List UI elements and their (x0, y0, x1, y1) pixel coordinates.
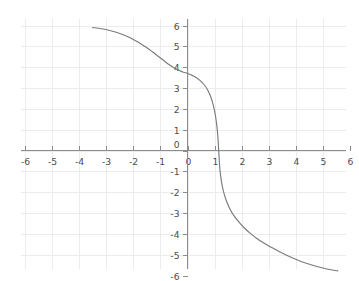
y-tick-label: 4 (174, 62, 180, 73)
x-tick-label: -4 (75, 156, 84, 167)
x-tick-label: 6 (348, 156, 354, 167)
y-tick-label: 6 (174, 21, 180, 32)
y-tick-label: -2 (170, 187, 179, 198)
x-tick-label: -6 (21, 156, 30, 167)
x-tick-label: -1 (156, 156, 165, 167)
y-tick-label: -1 (170, 166, 179, 177)
y-tick-label: 2 (174, 104, 180, 115)
y-tick-label: -3 (170, 208, 179, 219)
y-tick-label: -6 (170, 271, 179, 281)
y-tick-label: 1 (174, 125, 180, 136)
x-tick-label: 2 (240, 156, 246, 167)
y-tick-label: 5 (174, 41, 180, 52)
x-tick-label: -3 (102, 156, 111, 167)
x-tick-label: 5 (321, 156, 327, 167)
x-tick-label: 0 (186, 156, 192, 167)
x-tick-label: 1 (213, 156, 219, 167)
x-tick-label: -2 (129, 156, 138, 167)
y-tick-label: -5 (170, 250, 179, 261)
coordinate-plane-chart: -6-5-4-3-2-10123456 -6-5-4-3-2-11234560 (0, 0, 359, 281)
chart-figure: -6-5-4-3-2-10123456 -6-5-4-3-2-11234560 (0, 0, 359, 281)
y-tick-label: -4 (170, 229, 179, 240)
x-tick-label: -5 (48, 156, 57, 167)
x-tick-label: 3 (267, 156, 273, 167)
origin-label: 0 (174, 139, 180, 150)
y-tick-label: 3 (174, 83, 180, 94)
chart-background (0, 0, 359, 281)
x-tick-label: 4 (294, 156, 300, 167)
